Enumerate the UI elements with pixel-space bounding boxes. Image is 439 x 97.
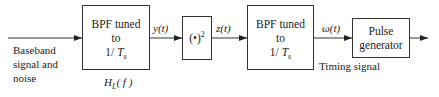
input-label-line: signal and [13, 57, 58, 71]
sq-exp: 2 [201, 30, 205, 39]
bpf2-line: 1/ Ts [270, 45, 291, 59]
signal-y-label: y(t) [153, 22, 168, 35]
bpf1-line: BPF tuned [92, 17, 141, 31]
input-label: Baseband signal and noise [13, 43, 58, 85]
pulse-generator-block: Pulse generator [352, 18, 410, 58]
input-label-line: Baseband [13, 43, 58, 57]
input-label-line: noise [13, 71, 58, 85]
bpf2-block: BPF tuned to 1/ Ts [247, 5, 314, 70]
bpf1-line: 1/ Ts [105, 45, 126, 59]
bpf2-frac: 1/ [270, 46, 282, 58]
bpf1-frac: 1/ [105, 46, 117, 58]
signal-w-label: ω(t) [322, 22, 340, 35]
squarer-block: (•)2 [182, 16, 212, 60]
bpf1-line: to [112, 31, 121, 45]
pulse-gen-line: generator [359, 38, 402, 52]
squarer-label: (•)2 [189, 31, 205, 45]
sq-base: (•) [189, 32, 201, 44]
bpf1-sub: s [124, 52, 127, 61]
bpf2-line: to [276, 31, 285, 45]
timing-signal-label: Timing signal [319, 60, 380, 73]
signal-z-label: z(t) [216, 22, 231, 35]
pulse-gen-line: Pulse [369, 24, 394, 38]
hl-var: H [104, 76, 112, 88]
bpf1-transfer-label: HL( f ) [104, 76, 132, 89]
bpf2-line: BPF tuned [256, 17, 305, 31]
hl-arg: ( f ) [116, 76, 132, 88]
bpf1-block: BPF tuned to 1/ Ts [82, 5, 150, 70]
bpf2-sub: s [288, 52, 291, 61]
